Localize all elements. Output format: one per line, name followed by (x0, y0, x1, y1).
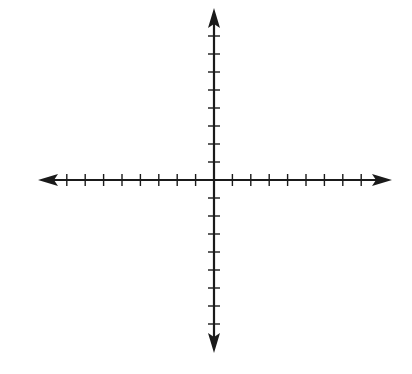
axes-drawing (0, 0, 412, 374)
coordinate-plane (0, 0, 412, 374)
